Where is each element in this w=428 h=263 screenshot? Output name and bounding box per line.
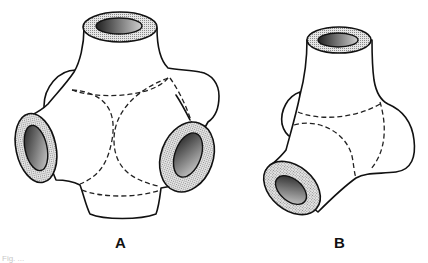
panel-b-label: B	[334, 234, 345, 251]
panel-b-top-hole	[318, 33, 358, 47]
panel-b-connector	[253, 27, 414, 225]
panel-a-label: A	[115, 234, 126, 251]
panel-a-connector	[9, 12, 224, 219]
figure-caption: Fig. ...	[2, 254, 24, 263]
panel-a-top-hole	[96, 18, 142, 34]
figure-drawing	[0, 0, 428, 263]
figure-canvas: A B Fig. ...	[0, 0, 428, 263]
